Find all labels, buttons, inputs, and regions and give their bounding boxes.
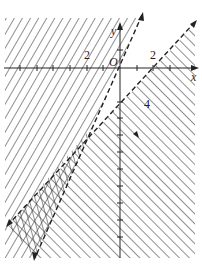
coordinate-plane [0, 0, 202, 267]
y-tick-label-neg4: 4 [144, 98, 150, 110]
y-axis-label: y [111, 25, 116, 37]
x-axis-label: x [191, 71, 196, 83]
x-tick-label-neg2: 2 [84, 49, 90, 61]
x-tick-label-2: 2 [150, 49, 156, 61]
origin-label: O [109, 56, 118, 68]
